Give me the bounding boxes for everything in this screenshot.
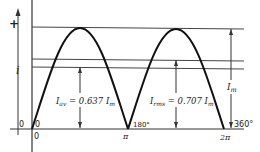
tick-2pi: 2π [219, 133, 231, 142]
origin-label-left: 0 [19, 120, 24, 129]
rms-level-line [32, 59, 244, 61]
waveform-diagram: + i Iav = 0.637 Im Irms = 0.707 Im Im 0 [0, 0, 260, 152]
peak-arrow [229, 29, 233, 128]
origin-label-below: 0 [34, 132, 39, 141]
peak-level-line [32, 27, 244, 29]
tick-pi: π [122, 132, 129, 141]
positive-sign: + [9, 17, 19, 31]
origin-label-inner: 0 [35, 120, 40, 129]
tick-360-degrees: 360° [234, 120, 253, 129]
tick-180-degrees: 180° [133, 121, 150, 129]
average-level-line [32, 67, 244, 69]
y-axis-label: i [16, 64, 20, 77]
